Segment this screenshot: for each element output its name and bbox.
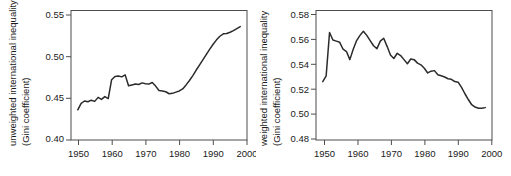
x-tick-label: 1950 (314, 148, 335, 159)
y-axis-title-line2: (Gini coefficient) (20, 78, 31, 146)
x-tick-label: 1970 (381, 148, 402, 159)
x-tick-label: 1990 (203, 148, 224, 159)
x-tick-label: 2000 (481, 148, 502, 159)
figure-container: unweighted international inequality (Gin… (0, 0, 511, 176)
x-tick-label: 1950 (68, 148, 89, 159)
x-tick-label: 1990 (448, 148, 469, 159)
x-axis-ticks-left: 1950 1960 1970 1980 1990 2000 (68, 140, 256, 159)
y-axis-title-right: weighted international inequality (Gini … (258, 11, 282, 147)
y-tick-label: 0.48 (291, 133, 310, 144)
x-tick-label: 1980 (169, 148, 190, 159)
y-axis-title-line1: weighted international inequality (258, 11, 269, 147)
y-tick-label: 0.40 (46, 133, 65, 144)
y-tick-label: 0.55 (46, 9, 65, 20)
series-line-unweighted-gini (78, 27, 240, 110)
y-axis-ticks-left: 0.55 0.50 0.45 0.40 (46, 9, 72, 144)
chart-panel-unweighted: unweighted international inequality (Gin… (0, 0, 256, 176)
y-axis-title-left: unweighted international inequality (Gin… (7, 0, 31, 146)
y-tick-label: 0.52 (291, 84, 310, 95)
plot-frame (71, 11, 247, 141)
x-tick-label: 1980 (414, 148, 435, 159)
weighted-inequality-chart: weighted international inequality (Gini … (256, 0, 511, 176)
x-axis-ticks-right: 1950 1960 1970 1980 1990 2000 (314, 140, 502, 159)
x-tick-label: 1960 (102, 148, 123, 159)
y-axis-ticks-right: 0.58 0.56 0.54 0.52 0.50 0.48 (291, 9, 317, 144)
series-line-weighted-gini (323, 31, 485, 108)
y-tick-label: 0.50 (46, 51, 65, 62)
y-tick-label: 0.56 (291, 34, 310, 45)
x-tick-label: 2000 (236, 148, 256, 159)
y-tick-label: 0.54 (291, 59, 310, 70)
x-tick-label: 1960 (347, 148, 368, 159)
plot-frame (316, 11, 492, 141)
y-axis-title-line1: unweighted international inequality (7, 0, 18, 146)
chart-panel-weighted: weighted international inequality (Gini … (256, 0, 511, 176)
y-axis-title-line2: (Gini coefficient) (271, 78, 282, 146)
unweighted-inequality-chart: unweighted international inequality (Gin… (0, 0, 256, 176)
y-tick-label: 0.50 (291, 108, 310, 119)
x-tick-label: 1970 (135, 148, 156, 159)
y-tick-label: 0.45 (46, 92, 65, 103)
y-tick-label: 0.58 (291, 9, 310, 20)
